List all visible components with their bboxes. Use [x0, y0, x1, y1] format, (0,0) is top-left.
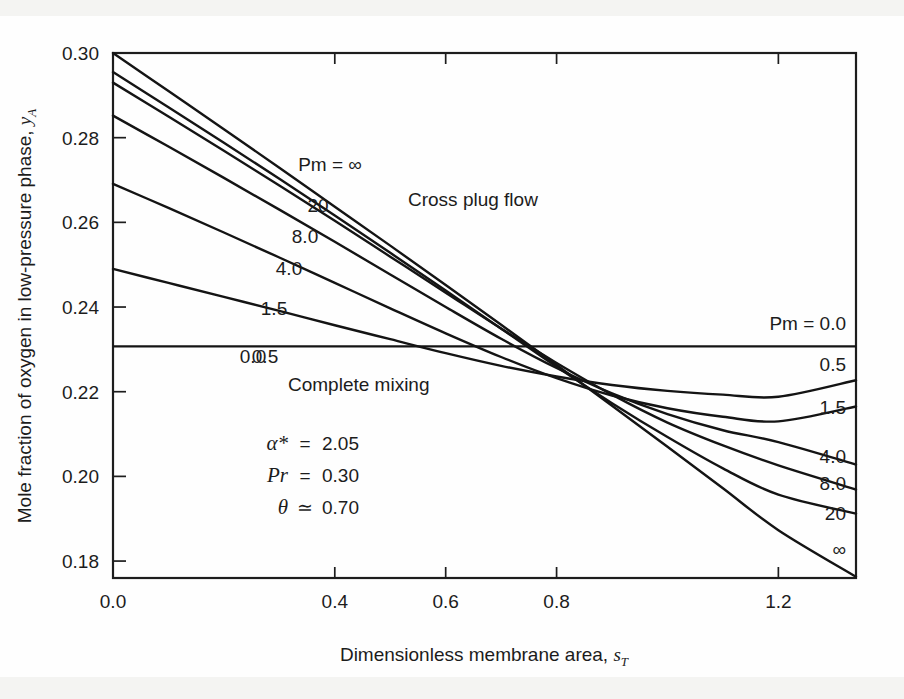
label-right-pm-4: 4.0: [820, 446, 846, 467]
alpha-star-relation: =: [299, 433, 310, 454]
plot-frame: [113, 53, 856, 578]
x-tick-label: 0.0: [100, 591, 126, 612]
figure-root: 0.00.40.60.81.2 0.180.200.220.240.260.28…: [0, 0, 904, 699]
curve-pm-4-0: [113, 116, 856, 465]
x-axis-title: Dimensionless membrane area, sT: [340, 644, 629, 669]
y-tick-label: 0.20: [62, 466, 99, 487]
label-right-pm-0p5: 0.5: [820, 354, 846, 375]
curve-pm-inf: [113, 53, 856, 577]
right-curve-labels: Pm = 0.00.51.54.08.020∞: [769, 313, 846, 560]
membrane-separation-chart: 0.00.40.60.81.2 0.180.200.220.240.260.28…: [0, 0, 904, 699]
cross-plug-flow: Cross plug flow: [408, 189, 538, 210]
curve-pm-0-5: [113, 269, 856, 398]
alpha-star-value: 2.05: [322, 433, 359, 454]
y-tick-label: 0.24: [62, 297, 99, 318]
x-tick-label: 0.8: [543, 591, 569, 612]
curve-pm-20: [113, 72, 856, 514]
label-pm-0: 0.0: [240, 346, 266, 367]
theta-value: 0.70: [322, 497, 359, 518]
y-tick-label: 0.18: [62, 551, 99, 572]
y-axis-ticks: [113, 53, 126, 561]
label-right-pm-8: 8.0: [820, 473, 846, 494]
region-annotations: Cross plug flowComplete mixing: [288, 189, 538, 395]
curve-pm-1-5: [113, 184, 856, 422]
y-tick-label: 0.26: [62, 212, 99, 233]
y-axis-tick-labels: 0.180.200.220.240.260.280.30: [62, 43, 99, 572]
alpha-star-symbol: α*: [266, 431, 288, 455]
x-tick-label: 1.2: [765, 591, 791, 612]
pressure-ratio-symbol: Pr: [266, 463, 289, 487]
label-right-pm-1p5: 1.5: [820, 397, 846, 418]
label-right-pm-20: 20: [825, 503, 846, 524]
y-tick-label: 0.22: [62, 382, 99, 403]
theta-symbol: θ: [278, 495, 288, 519]
data-curves: [113, 53, 856, 577]
left-curve-labels: Pm = ∞208.04.01.50.50.0: [240, 154, 362, 367]
x-tick-label: 0.4: [322, 591, 349, 612]
label-pm-8: 8.0: [292, 226, 318, 247]
label-pm-20: 20: [307, 195, 328, 216]
pressure-ratio-value: 0.30: [322, 465, 359, 486]
pressure-ratio-relation: =: [299, 465, 310, 486]
label-right-pm-inf: ∞: [832, 539, 846, 560]
y-tick-label: 0.30: [62, 43, 99, 64]
label-pm-4: 4.0: [276, 258, 302, 279]
label-pm-inf: Pm = ∞: [298, 154, 362, 175]
x-axis-ticks: [113, 53, 778, 578]
x-axis-tick-labels: 0.00.40.60.81.2: [100, 591, 792, 612]
y-axis-title: Mole fraction of oxygen in low-pressure …: [14, 109, 39, 524]
theta-relation: ≃: [297, 497, 313, 518]
complete-mixing: Complete mixing: [288, 374, 430, 395]
label-right-pm-0: Pm = 0.0: [769, 313, 846, 334]
parameter-block: α*=2.05Pr=0.30θ≃0.70: [266, 431, 359, 519]
y-tick-label: 0.28: [62, 128, 99, 149]
x-tick-label: 0.6: [432, 591, 458, 612]
label-pm-1p5: 1.5: [261, 298, 287, 319]
